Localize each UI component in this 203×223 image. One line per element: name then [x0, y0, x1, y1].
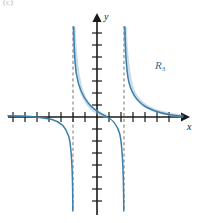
- curve-group: [8, 27, 182, 211]
- plot-canvas: [0, 0, 203, 223]
- curve-branch-right-upper: [125, 27, 182, 116]
- curve-branch-middle-lower: [106, 116, 124, 211]
- y-axis-arrowhead: [92, 13, 101, 22]
- region-label-base: R: [155, 59, 162, 71]
- region-label-subscript: 3: [162, 65, 166, 73]
- region-label: R3: [155, 60, 165, 71]
- asymptote-group: [73, 26, 124, 211]
- x-axis-label: x: [187, 122, 191, 132]
- curve-branch-left-lower: [8, 116, 73, 211]
- y-axis-label: y: [104, 12, 108, 22]
- graph-figure: (c): [0, 0, 203, 223]
